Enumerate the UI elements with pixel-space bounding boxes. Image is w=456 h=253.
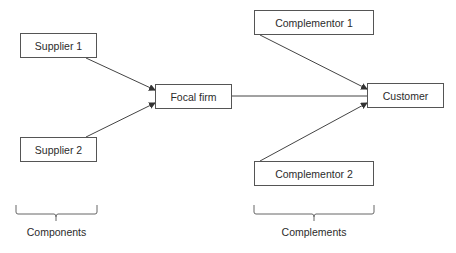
node-complementor-2: Complementor 2 <box>254 161 374 186</box>
group-label-components: Components <box>16 226 97 238</box>
edge-complementor1-customer <box>260 35 367 89</box>
node-customer: Customer <box>367 83 444 108</box>
node-focal-firm: Focal firm <box>155 84 232 109</box>
node-supplier-1: Supplier 1 <box>20 33 97 58</box>
edge-complementor2-customer <box>260 103 367 161</box>
node-label: Supplier 2 <box>35 144 82 156</box>
edge-supplier2-focal <box>86 103 155 137</box>
node-supplier-2: Supplier 2 <box>20 137 97 162</box>
group-label-complements: Complements <box>254 226 374 238</box>
node-label: Supplier 1 <box>35 40 82 52</box>
components-brace-icon <box>16 205 97 217</box>
complements-brace-icon <box>254 205 374 217</box>
node-label: Complementor 1 <box>275 17 353 29</box>
node-label: Complementor 2 <box>275 168 353 180</box>
node-label: Focal firm <box>170 91 216 103</box>
node-complementor-1: Complementor 1 <box>254 10 374 35</box>
node-label: Customer <box>383 90 429 102</box>
edge-supplier1-focal <box>86 58 155 90</box>
